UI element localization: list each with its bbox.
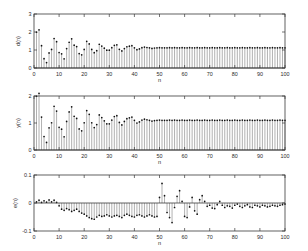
data-point [181,47,183,49]
data-point [164,47,166,49]
data-point [254,47,256,49]
data-point [186,47,188,49]
x-tick-label: 40 [131,153,137,159]
data-point [116,214,118,216]
data-point [108,215,110,217]
data-point [231,119,233,121]
data-point [209,119,211,121]
data-point [196,119,198,121]
data-point [226,119,228,121]
data-point [141,215,143,217]
data-point [151,215,153,217]
data-point [254,204,256,206]
data-point [236,47,238,49]
data-point [73,115,75,117]
data-point [169,47,171,49]
data-point [144,216,146,218]
data-point [78,53,80,55]
data-point [259,119,261,121]
data-point [274,47,276,49]
data-point [239,206,241,208]
data-point [161,183,163,185]
data-point [108,123,110,125]
x-tick-label: 10 [56,71,62,77]
x-tick-label: 100 [281,234,290,240]
y-tick-label: 0.1 [24,172,32,178]
data-point [231,207,233,209]
plot-e-svg: 0102030405060708090100-0.100.1e(n)n [0,163,308,251]
data-point [36,201,38,203]
data-point [48,52,50,54]
data-point [134,47,136,49]
data-point [274,205,276,207]
data-point [154,120,156,122]
data-point [91,218,93,220]
data-point [219,119,221,121]
data-point [272,204,274,206]
panel-e: 0102030405060708090100-0.100.1e(n)n [0,163,308,251]
data-point [101,45,103,47]
data-point [136,214,138,216]
y-tick-label: 2 [29,29,32,35]
data-point [46,142,48,144]
data-point [231,47,233,49]
data-point [214,47,216,49]
data-point [38,92,40,94]
data-point [267,206,269,208]
data-point [101,117,103,119]
data-point [272,47,274,49]
data-point [154,47,156,49]
data-point [224,119,226,121]
x-tick-label: 0 [33,153,36,159]
data-point [149,214,151,216]
data-point [249,119,251,121]
data-point [179,47,181,49]
data-point [221,47,223,49]
data-point [76,118,78,120]
data-point [191,119,193,121]
plot-e-xlabel: n [158,240,161,246]
data-point [103,215,105,217]
data-point [194,210,196,212]
data-point [121,50,123,52]
x-tick-label: 0 [33,71,36,77]
data-point [63,136,65,138]
data-point [81,54,83,56]
data-point [264,205,266,207]
data-point [244,119,246,121]
data-point [201,195,203,197]
data-point [53,199,55,201]
y-tick-label: 0 [29,147,32,153]
data-point [51,49,53,51]
data-point [171,119,173,121]
x-tick-label: 50 [157,153,163,159]
data-point [259,206,261,208]
data-point [166,47,168,49]
plot-d-svg: 01020304050607080901000123d(n)n [0,0,308,85]
data-point [199,199,201,201]
data-point [151,48,153,50]
data-point [61,208,63,210]
data-point [63,209,65,211]
data-point [81,130,83,132]
data-point [88,43,90,45]
data-point [156,47,158,49]
data-point [134,119,136,121]
data-point [66,208,68,210]
data-point [41,45,43,47]
data-point [226,47,228,49]
data-point [106,49,108,51]
x-tick-label: 20 [81,71,87,77]
x-tick-label: 80 [232,153,238,159]
data-point [234,47,236,49]
data-point [106,214,108,216]
x-tick-label: 40 [131,234,137,240]
data-point [43,200,45,202]
data-point [86,41,88,43]
data-point [164,195,166,197]
data-point [134,216,136,218]
data-point [124,214,126,216]
data-point [63,58,65,60]
data-point [141,47,143,49]
data-point [58,52,60,54]
